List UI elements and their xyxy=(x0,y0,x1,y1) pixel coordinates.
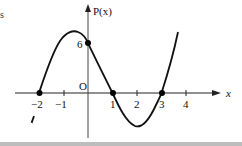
cubic-curve xyxy=(32,116,34,123)
x-tick-minus2: −2 xyxy=(31,98,43,110)
y-tick-6: 6 xyxy=(77,38,83,50)
origin-label: O xyxy=(79,80,87,92)
root-point-3 xyxy=(159,90,165,96)
root-point-minus2 xyxy=(37,90,43,96)
x-axis-label: x xyxy=(225,87,231,99)
y-intercept-point xyxy=(85,40,91,46)
root-point-1 xyxy=(110,90,116,96)
cubic-graph: P(x) x O 6 −2 −1 1 2 3 4 xyxy=(0,0,242,146)
cubic-curve-main xyxy=(39,31,178,126)
x-tick-minus1: −1 xyxy=(55,98,67,110)
x-axis-arrow-icon xyxy=(212,90,221,96)
x-tick-3: 3 xyxy=(159,98,165,110)
x-tick-1: 1 xyxy=(110,98,116,110)
bottom-rule xyxy=(0,142,242,146)
x-tick-4: 4 xyxy=(183,98,189,110)
y-axis-label: P(x) xyxy=(93,5,112,18)
y-axis-arrow-icon xyxy=(85,4,91,12)
x-tick-2: 2 xyxy=(134,98,140,110)
